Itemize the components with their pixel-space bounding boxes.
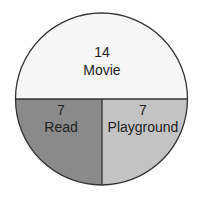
pie-chart: 14 Movie 7 Read 7 Playground [0,0,201,197]
read-value-label: 7 [57,102,65,118]
read-name-label: Read [44,119,77,135]
slice-read [0,99,102,197]
movie-name-label: Movie [83,62,121,78]
playground-name-label: Playground [108,119,179,135]
movie-value-label: 14 [94,44,110,60]
playground-value-label: 7 [139,102,147,118]
